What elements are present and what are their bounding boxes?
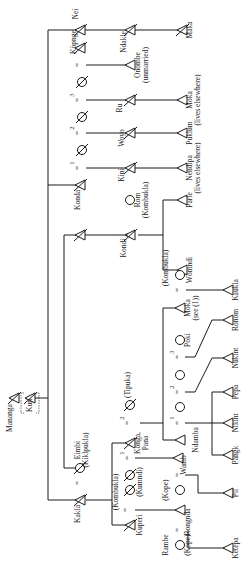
marriage-sign-pil: =	[173, 472, 182, 477]
marriage-sign-2: =	[73, 130, 82, 135]
marriage-sign-kaukla: =	[173, 287, 182, 292]
eimbi-branch	[64, 235, 80, 468]
marriage-sign-kakla: =	[73, 480, 82, 485]
ndamba-wife-1-female-symbol	[176, 403, 185, 412]
ketepa-line	[188, 530, 228, 548]
marriage-order-number: 1	[118, 451, 125, 454]
label-ndamba: Ndamba	[191, 427, 200, 453]
label-kopnge: Köpnge	[69, 29, 78, 53]
marriage-order-number: 1	[168, 416, 175, 419]
konda-wife-a-deceased-female-symbol	[76, 76, 88, 88]
label-nendipa-note: (lives elsewhere)	[193, 142, 202, 194]
label-nei: Nei	[71, 9, 80, 20]
label-kakla: Kakla	[73, 504, 82, 523]
marriage-sign-wamb: =	[123, 455, 132, 460]
label-ndakle: Ndakle	[119, 31, 128, 53]
marriage-sign-rambe: =	[173, 527, 182, 532]
label-ronom: Ronom	[231, 309, 240, 331]
pil-line	[185, 475, 228, 493]
marriage-order-number: 3	[168, 350, 175, 353]
label-kondi: Kondi	[119, 239, 128, 258]
label-maka: Maka	[185, 21, 194, 39]
marriage-sign-3: =	[73, 97, 82, 102]
konda-male-symbol	[74, 179, 87, 191]
label-pepa: Pepa	[231, 384, 240, 399]
label-womndi: Wömndi	[185, 257, 194, 283]
label-pana: Pana	[141, 435, 150, 450]
konda-wife-3-deceased-female-symbol	[76, 111, 88, 123]
label-nikint: Nikint	[231, 413, 240, 433]
konda-wife-2-deceased-female-symbol	[76, 144, 88, 156]
mananga-male-symbol	[8, 392, 21, 404]
label-eimbi-clan: (Kiklpukla)	[81, 432, 90, 467]
marriage-order-number: 2	[168, 385, 175, 388]
label-wamb: Wamb	[179, 455, 188, 475]
label-pil: Pil	[231, 489, 240, 497]
label-kaukla: Kaukla	[231, 279, 240, 301]
marriage-sign-rongnda: =	[121, 507, 130, 512]
label-kope-2: (Kope)	[183, 534, 192, 556]
nukint-line	[185, 358, 228, 392]
label-parle: Parle	[185, 192, 194, 208]
label-rongnda: Rongnda	[183, 508, 192, 536]
marriage-sign-ndamba-2: =	[173, 389, 182, 394]
marriage-sign-tipuka: =	[123, 420, 132, 425]
label-kuri: Kuri	[25, 398, 34, 412]
marriage-sign-1: =	[73, 165, 82, 170]
label-moka-note: (see (1))	[191, 295, 200, 321]
label-kombukla-wife: (Kombukla)	[161, 249, 170, 286]
label-kini: Kini	[117, 168, 126, 181]
kope-wife-female-symbol	[176, 486, 185, 495]
marriage-order-number: 1	[68, 161, 75, 164]
label-moka-ru-note: (lives elsewhere)	[193, 74, 202, 126]
marriage-sign-poki: =	[173, 354, 182, 359]
ndamba-wife-2-female-symbol	[176, 371, 185, 380]
ndamba-male-symbol	[175, 435, 185, 445]
kondi-father-male-symbol	[74, 229, 87, 241]
tipuka-wife-deceased-female-symbol	[124, 399, 136, 411]
label-kumndi: (Kumndi)	[135, 467, 144, 497]
kinship-diagram: ManangaKuriNeiKöpngeNdakleMaka=Onombe(un…	[0, 0, 252, 567]
label-poki: Pöki	[183, 333, 192, 347]
label-puklum: Puklum	[185, 121, 194, 145]
label-ru: Ru	[115, 103, 124, 112]
marriage-sign-rom: =	[123, 232, 132, 237]
label-rom-clan: (Kombukla)	[141, 181, 150, 218]
marriage-order-number: 3	[68, 93, 75, 96]
label-ketepa: Ketepa	[231, 537, 240, 559]
marriage-sign-onombe: =	[73, 62, 82, 67]
label-kombukla-2: (Kombukla)	[111, 473, 120, 510]
kakla-male-symbol	[74, 494, 87, 506]
label-onombe-note: (unmarried)	[141, 47, 150, 83]
kombukla-wife-female-symbol	[176, 271, 185, 280]
people-labels: ManangaKuriNeiKöpngeNdakleMaka=Onombe(un…	[5, 9, 240, 559]
label-mananga: Mananga	[5, 403, 14, 432]
marriage-order-number: 2	[68, 126, 75, 129]
ru-male-symbol	[124, 94, 137, 106]
label-woyo: Woyo	[117, 129, 126, 147]
label-rambe: Rambe	[161, 534, 170, 556]
label-nukint: Nukint	[231, 347, 240, 369]
label-kope-1: (Kope)	[161, 479, 170, 501]
label-kuperi: Kuperi	[135, 515, 144, 536]
marriage-sign-ndamba-1: =	[173, 420, 182, 425]
label-pangk: Pangk	[231, 445, 240, 464]
label-konda: Konda	[73, 189, 82, 210]
marriage-order-number: 2	[118, 416, 125, 419]
label-tipuka: (Tipuka)	[123, 372, 132, 398]
